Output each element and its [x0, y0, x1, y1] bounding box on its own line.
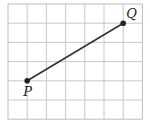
point-p-dot: [24, 78, 30, 84]
segment-pq: [27, 23, 123, 81]
grid-diagram: PQ: [0, 0, 150, 126]
point-p-label: P: [22, 84, 32, 99]
point-q-label: Q: [126, 6, 137, 21]
point-q-dot: [120, 20, 126, 26]
points: PQ: [22, 6, 137, 99]
